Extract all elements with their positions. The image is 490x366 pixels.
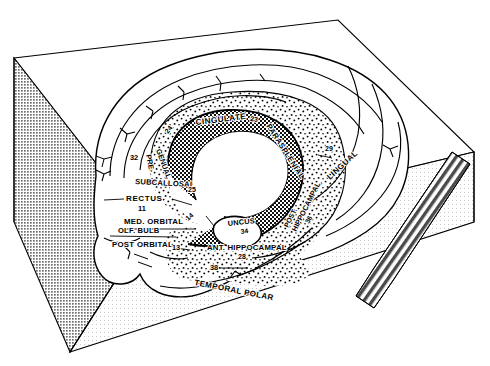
label-olf-bulb: OLF. BULB <box>118 226 160 235</box>
brain-block-illustration: CINGULATECINGULATE24242323PARASPLENIALPA… <box>0 0 490 366</box>
label-area-13: 13 <box>172 243 180 252</box>
label-area-29: 29 <box>325 145 333 152</box>
label-post-orbital: POST ORBITAL <box>112 240 173 249</box>
label-rectus: RECTUS <box>126 194 163 203</box>
label-ant-hippocampal: ANT. HIPPOCAMPAL <box>207 243 287 252</box>
label-area-34: 34 <box>240 227 249 235</box>
label-area-32: 32 <box>130 153 138 162</box>
label-med-orbital: MED. ORBITAL <box>124 217 183 226</box>
label-area-28: 28 <box>238 253 246 260</box>
figure-canvas: CINGULATECINGULATE24242323PARASPLENIALPA… <box>0 0 490 366</box>
label-area-11: 11 <box>138 204 146 213</box>
label-area-23: 23 <box>250 115 259 123</box>
label-area-25: 25 <box>188 186 196 193</box>
label-area-38: 38 <box>210 263 218 272</box>
